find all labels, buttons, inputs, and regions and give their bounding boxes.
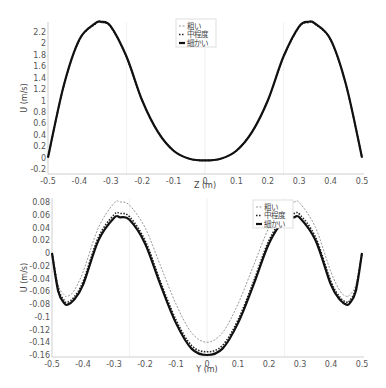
x-axis-label: Y (m) [195,365,217,374]
y-tick-label: 0.6 [33,119,46,128]
y-tick-label: -0.12 [29,326,50,335]
x-tick-label: 0.5 [356,360,369,369]
y-tick-label: 0.02 [32,236,50,245]
y-axis-label: U (m/s) [20,83,29,112]
x-tick-label: -0.4 [72,177,88,186]
legend: 粗い中程度細かい [253,200,293,229]
x-tick-label: 0.5 [356,177,369,186]
x-tick-label: -0.5 [40,177,56,186]
x-tick-label: -0.1 [168,360,184,369]
y-tick-label: 0.2 [33,142,46,151]
y-tick-label: 2 [41,39,46,48]
top-plot: -0.5-0.4-0.3-0.2-0.100.10.20.30.40.5-0.2… [20,19,368,190]
y-tick-label: 1.6 [33,62,46,71]
x-tick-label: 0.1 [232,360,245,369]
legend-entry: 細かい [264,219,285,229]
legend-entry: 粗い [264,202,278,212]
y-tick-label: 0.08 [32,198,50,207]
y-tick-label: 0.06 [32,211,50,220]
x-tick-label: 0.4 [325,360,338,369]
x-tick-label: 0.4 [324,177,337,186]
y-tick-label: 0.04 [32,224,50,233]
x-tick-label: -0.4 [75,360,91,369]
legend-entry: 細かい [187,38,208,48]
y-axis-label: U (m/s) [20,263,29,292]
y-tick-label: 0 [45,249,50,258]
y-tick-label: -0.16 [29,351,50,360]
y-tick-label: 0 [41,154,46,163]
y-tick-label: -0.14 [29,338,50,347]
y-tick-label: 1.8 [33,51,46,60]
y-tick-label: -0.2 [30,165,46,174]
x-tick-label: 0.1 [230,177,243,186]
y-tick-label: 2.2 [33,28,46,37]
y-tick-label: 0.4 [33,131,46,140]
x-tick-label: 0.2 [263,360,276,369]
x-axis-label: Z (m) [194,181,216,190]
x-tick-label: 0.3 [293,177,306,186]
y-tick-label: 1.4 [33,74,46,83]
bottom-plot: -0.5-0.4-0.3-0.2-0.100.10.20.30.40.50.08… [20,198,368,374]
legend-entry: 中程度 [187,29,209,39]
legend-entry: 中程度 [264,210,286,220]
x-tick-label: -0.1 [166,177,182,186]
y-tick-label: -0.04 [29,275,50,284]
x-tick-label: 0.3 [294,360,307,369]
y-tick-label: 1 [41,97,46,106]
x-tick-label: -0.3 [103,177,119,186]
chart-figure: -0.5-0.4-0.3-0.2-0.100.10.20.30.40.5-0.2… [0,0,386,388]
y-tick-label: -0.02 [29,262,50,271]
x-tick-label: -0.3 [106,360,122,369]
y-tick-label: -0.06 [29,287,50,296]
x-tick-label: 0.2 [261,177,274,186]
y-tick-label: -0.08 [29,300,50,309]
legend: 粗い中程度細かい [176,19,216,48]
x-tick-label: -0.2 [137,360,153,369]
y-tick-label: 0.8 [33,108,46,117]
x-tick-label: -0.2 [134,177,150,186]
y-tick-label: 1.2 [33,85,46,94]
legend-entry: 粗い [187,21,201,31]
x-tick-label: -0.5 [44,360,60,369]
y-tick-label: -0.1 [34,313,50,322]
